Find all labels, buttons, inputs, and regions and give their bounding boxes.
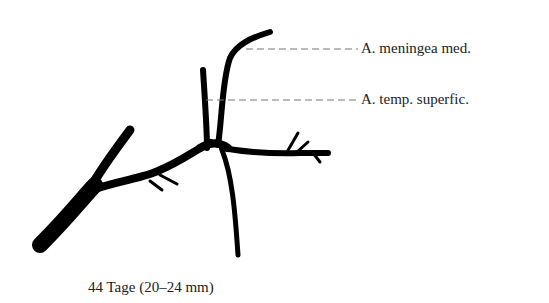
label-temporalis-superficialis: A. temp. superfic. xyxy=(361,92,469,107)
right-twig-1 xyxy=(287,133,298,152)
temporal-superficial-branch xyxy=(203,70,207,148)
twig-2 xyxy=(160,175,177,184)
twig-1 xyxy=(150,181,162,190)
descending-branch xyxy=(222,150,238,255)
figure-caption: 44 Tage (20–24 mm) xyxy=(88,280,214,295)
vessel-tree xyxy=(40,32,328,255)
label-meningea-media: A. meningea med. xyxy=(361,41,471,56)
